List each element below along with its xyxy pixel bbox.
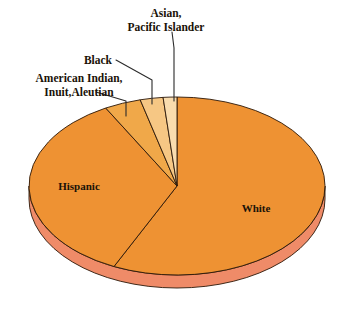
label-asian-pacific-islander-line2: Pacific Islander xyxy=(128,21,205,33)
label-hispanic: Hispanic xyxy=(58,180,100,192)
leader-line-asian-pacific-islander xyxy=(172,32,174,101)
pie-chart-canvas: Asian, Pacific Islander Black American I… xyxy=(0,0,347,330)
label-american-indian-line1: American Indian, xyxy=(36,72,123,84)
label-american-indian-line2: Inuit,Aleutian xyxy=(44,86,114,98)
label-white: White xyxy=(242,202,271,214)
pie-chart-figure: Asian, Pacific Islander Black American I… xyxy=(0,0,347,330)
label-asian-pacific-islander-line1: Asian, xyxy=(151,7,182,19)
label-black: Black xyxy=(84,54,113,66)
